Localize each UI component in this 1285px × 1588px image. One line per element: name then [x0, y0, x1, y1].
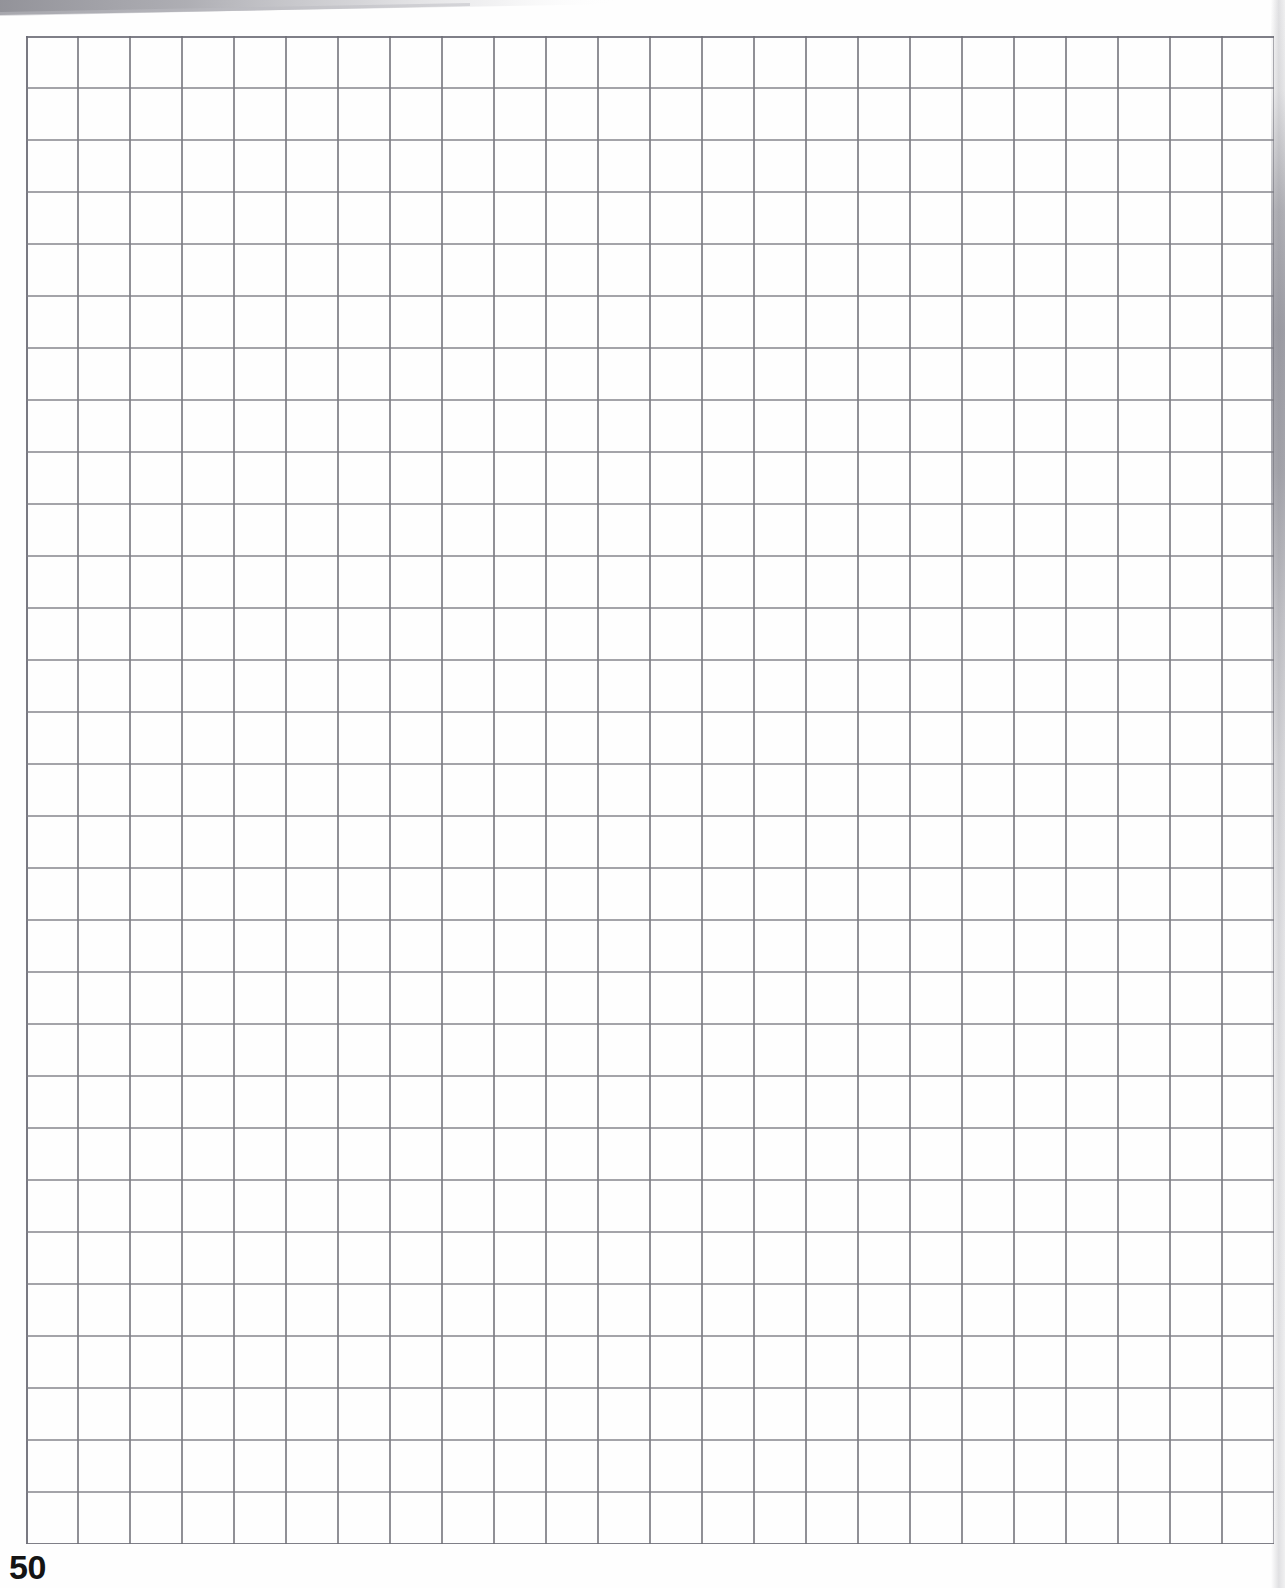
top-left-diagonal-scan-shadow [0, 0, 620, 22]
graph-paper-grid [26, 36, 1274, 1544]
page-surface: 50 [0, 0, 1285, 1588]
right-edge-page-curl-shadow [1271, 0, 1285, 1588]
page-number: 50 [9, 1550, 46, 1584]
